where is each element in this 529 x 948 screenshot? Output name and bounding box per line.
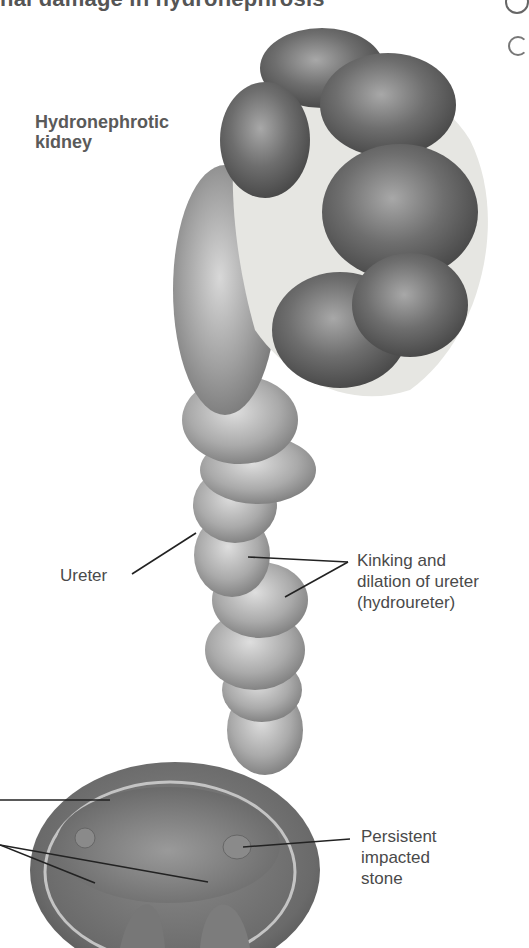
label-ureter: Ureter [60,565,107,586]
label-line: Kinking and [357,550,479,571]
label-line: (hydroureter) [357,592,479,613]
label-kinking-dilation: Kinking and dilation of ureter (hydroure… [357,550,479,613]
label-line: dilation of ureter [357,571,479,592]
label-line: impacted [361,847,437,868]
dilated-ureter [182,376,316,775]
label-line: Persistent [361,826,437,847]
label-line: Hydronephrotic [35,112,169,132]
bladder [30,762,320,948]
label-line: stone [361,868,437,889]
label-hydronephrotic-kidney: Hydronephrotic kidney [35,112,169,152]
label-persistent-impacted-stone: Persistent impacted stone [361,826,437,889]
label-line: kidney [35,132,169,152]
